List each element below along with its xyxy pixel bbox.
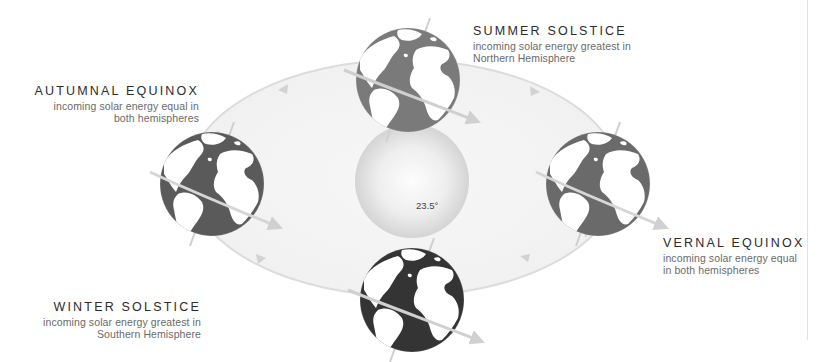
axial-tilt-label: 23.5° [416,200,438,211]
winter-solstice-desc-1: incoming solar energy greatest in [43,316,201,328]
vernal-equinox-label: VERNAL EQUINOX incoming solar energy equ… [663,236,804,277]
autumnal-equinox-desc-2: both hemispheres [34,112,199,124]
vernal-equinox-desc-1: incoming solar energy equal [663,252,804,264]
autumnal-equinox-title: AUTUMNAL EQUINOX [34,84,199,98]
summer-solstice-desc-1: incoming solar energy greatest in [473,40,631,52]
summer-solstice-title: SUMMER SOLSTICE [473,24,631,38]
winter-solstice-title: WINTER SOLSTICE [43,300,201,314]
winter-solstice-label: WINTER SOLSTICE incoming solar energy gr… [43,300,201,341]
vernal-equinox-title: VERNAL EQUINOX [663,236,804,250]
sun [355,124,469,238]
autumnal-equinox-label: AUTUMNAL EQUINOX incoming solar energy e… [34,84,199,125]
vertical-divider [807,0,808,340]
winter-solstice-desc-2: Southern Hemisphere [43,328,201,340]
summer-solstice-label: SUMMER SOLSTICE incoming solar energy gr… [473,24,631,65]
vernal-equinox-desc-2: in both hemispheres [663,264,804,276]
summer-solstice-desc-2: Northern Hemisphere [473,52,631,64]
autumnal-equinox-desc-1: incoming solar energy equal in [34,100,199,112]
